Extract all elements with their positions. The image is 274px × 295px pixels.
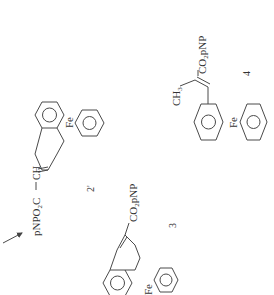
arene-ring-icon <box>35 102 64 128</box>
compound-4: CO2pNP CH3 Fe 4 <box>170 36 267 140</box>
ester-label: CO2pNP <box>127 184 141 222</box>
reaction-arrow <box>3 233 22 243</box>
compound-number: 2' <box>85 185 96 192</box>
ester-label: pNPO2C <box>30 198 44 236</box>
ch-label: CH <box>31 166 42 180</box>
arene-ring-icon <box>194 104 223 140</box>
metal-label: Fe <box>142 284 154 295</box>
scheme-svg: Fe pNPO2C CH 2' CO2pNP Fe 3 CO2pNP CH3 F… <box>0 0 274 295</box>
cyclopentadienyl-ring-icon <box>154 268 178 292</box>
ester-label: CO2pNP <box>196 36 210 74</box>
compound-2prime: Fe pNPO2C CH 2' <box>30 102 104 236</box>
compound-number: 4 <box>241 71 252 76</box>
compound-3: CO2pNP Fe 3 <box>103 184 178 295</box>
reaction-scheme: Fe pNPO2C CH 2' CO2pNP Fe 3 CO2pNP CH3 F… <box>0 0 274 295</box>
arene-ring-icon <box>103 270 132 295</box>
metal-label: Fe <box>63 117 75 128</box>
methyl-label: CH3 <box>170 87 184 106</box>
cyclopentadienyl-ring-icon <box>240 104 267 140</box>
compound-number: 3 <box>167 223 178 228</box>
cyclopentadienyl-ring-icon <box>75 110 104 136</box>
metal-label: Fe <box>227 117 239 128</box>
